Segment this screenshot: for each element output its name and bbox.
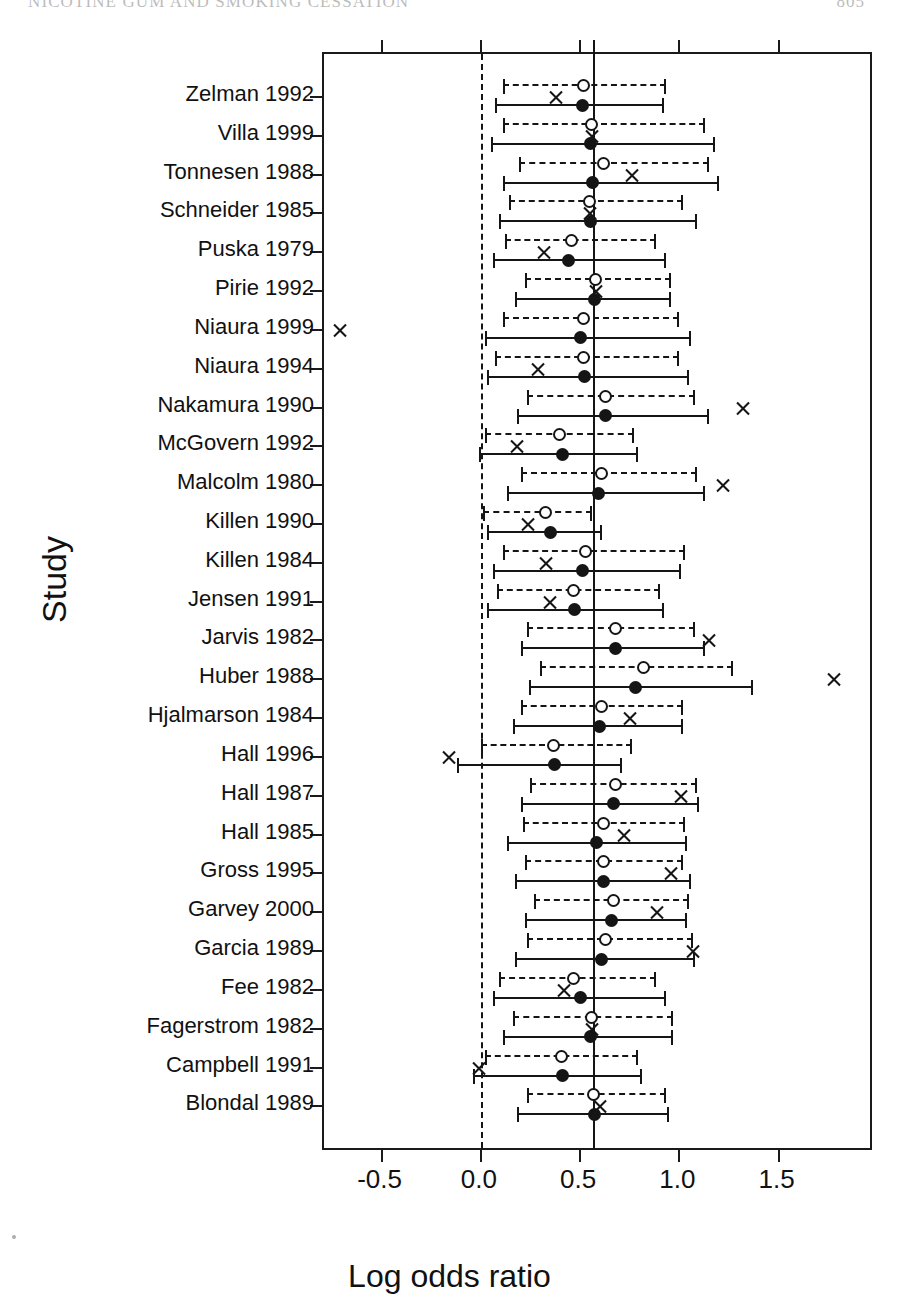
ci-cap-left [525,855,527,870]
x-axis-tick-bottom [678,1148,680,1162]
ci-cap-right [636,1050,638,1065]
filled-circle-marker [588,293,601,306]
open-circle-marker [585,1011,598,1024]
study-label-zelman-1992: Zelman 1992 [186,81,314,107]
ci-cap-right [713,137,715,152]
ci-cap-right [689,874,691,889]
ci-cap-right [681,719,683,734]
x-axis-tick-top [778,40,780,54]
x-marker [520,516,537,533]
ci-line [517,415,710,417]
ci-cap-left [487,370,489,385]
ci-cap-right [685,836,687,851]
ci-cap-right [681,700,683,715]
x-axis-tick-label: 0.5 [533,1164,623,1195]
ci-cap-right [707,409,709,424]
ci-line [503,123,706,125]
ci-cap-left [493,564,495,579]
open-circle-marker [599,390,612,403]
study-label-hjalmarson-1984: Hjalmarson 1984 [148,702,314,728]
ci-cap-left [485,428,487,443]
ci-cap-left [507,486,509,501]
x-marker [548,89,565,106]
ci-cap-left [503,545,505,560]
ci-cap-right [667,1107,669,1122]
study-label-tonnesen-1988: Tonnesen 1988 [164,159,314,185]
open-circle-marker [585,118,598,131]
filled-circle-marker [556,448,569,461]
filled-circle-marker [584,1030,597,1043]
ci-cap-right [731,661,733,676]
ci-line [503,182,719,184]
x-marker [530,361,547,378]
ci-cap-left [491,137,493,152]
filled-circle-marker [562,254,575,267]
ci-line [457,764,622,766]
study-label-garvey-2000: Garvey 2000 [188,896,314,922]
open-circle-marker [609,778,622,791]
ci-cap-right [662,603,664,618]
study-label-niaura-1999: Niaura 1999 [194,314,314,340]
x-axis-tick-bottom [480,1148,482,1162]
ci-cap-left [519,157,521,172]
open-circle-marker [567,584,580,597]
study-label-killen-1984: Killen 1984 [205,547,314,573]
x-marker [701,632,718,649]
ci-cap-right [695,214,697,229]
ci-cap-right [751,680,753,695]
ci-cap-right [687,370,689,385]
x-marker [615,827,632,844]
ci-cap-right [693,622,695,637]
ci-cap-right [658,584,660,599]
ci-line [503,317,680,319]
ci-cap-left [515,952,517,967]
x-axis-tick-bottom [579,1148,581,1162]
ci-line [485,337,691,339]
ci-cap-left [495,351,497,366]
ci-cap-right [590,506,592,521]
study-label-niaura-1994: Niaura 1994 [194,353,314,379]
ci-cap-left [479,447,481,462]
ci-cap-left [530,778,532,793]
ci-cap-left [483,506,485,521]
ci-cap-right [703,118,705,133]
ci-line [507,492,706,494]
filled-circle-marker [597,875,610,888]
open-circle-marker [595,700,608,713]
ci-cap-left [505,234,507,249]
filled-circle-marker [590,836,603,849]
ci-line [483,511,592,513]
open-circle-marker [579,545,592,558]
filled-circle-marker [607,797,620,810]
open-circle-marker [577,351,590,364]
ci-cap-left [487,603,489,618]
ci-cap-left [503,176,505,191]
ci-cap-left [527,622,529,637]
study-label-puska-1979: Puska 1979 [198,236,314,262]
ci-cap-left [527,1088,529,1103]
study-label-gross-1995: Gross 1995 [200,857,314,883]
ci-cap-right [654,234,656,249]
open-circle-marker [539,506,552,519]
x-marker [538,555,555,572]
x-marker [826,671,843,688]
ci-cap-right [664,991,666,1006]
study-label-huber-1988: Huber 1988 [199,663,314,689]
open-circle-marker [597,855,610,868]
x-marker [734,400,751,417]
filled-circle-marker [588,1108,601,1121]
x-marker [331,322,348,339]
forest-plot-frame [322,52,872,1150]
filled-circle-marker [574,991,587,1004]
ci-cap-left [513,1011,515,1026]
x-marker [536,244,553,261]
ci-cap-left [509,195,511,210]
study-label-pirie-1992: Pirie 1992 [215,275,314,301]
filled-circle-marker [556,1069,569,1082]
x-marker [649,904,666,921]
ci-cap-right [697,797,699,812]
study-label-blondal-1989: Blondal 1989 [186,1090,314,1116]
ci-cap-right [679,564,681,579]
filled-circle-marker [599,409,612,422]
filled-circle-marker [605,914,618,927]
